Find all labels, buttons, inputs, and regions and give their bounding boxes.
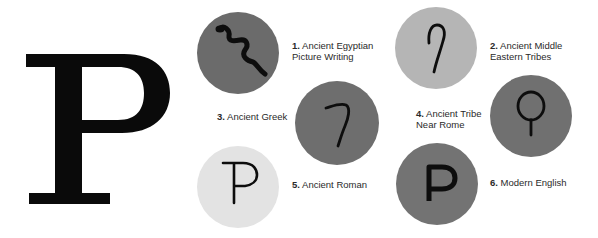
stage-5-label: 5. Ancient Roman bbox=[292, 179, 367, 190]
stage-2-label: 2. Ancient Middle Eastern Tribes bbox=[490, 40, 562, 62]
stage-4-disc bbox=[490, 75, 572, 157]
stage-3-label: 3. Ancient Greek bbox=[217, 111, 287, 122]
stage-5-disc bbox=[197, 146, 279, 228]
stage-3-disc bbox=[295, 81, 379, 165]
stage-1-disc bbox=[197, 12, 279, 94]
stage-6-label: 6. Modern English bbox=[490, 177, 567, 188]
stage-2-disc bbox=[395, 7, 477, 89]
stage-1-label: 1. Ancient Egyptian Picture Writing bbox=[292, 40, 373, 62]
stage-4-label: 4. Ancient Tribe Near Rome bbox=[416, 108, 482, 130]
modern-p-glyph-icon bbox=[396, 143, 478, 225]
stage-6-disc bbox=[396, 143, 478, 225]
snake-glyph-icon bbox=[197, 12, 279, 94]
hook-glyph-icon bbox=[395, 7, 477, 89]
loop-glyph-icon bbox=[490, 75, 572, 157]
large-letter-p bbox=[20, 47, 180, 207]
roman-p-glyph-icon bbox=[197, 146, 279, 228]
greek-pi-glyph-icon bbox=[295, 81, 379, 165]
